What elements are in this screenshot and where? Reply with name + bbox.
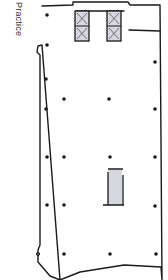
structural-columns xyxy=(36,13,157,256)
building-outline xyxy=(37,2,162,280)
floor-plan xyxy=(0,0,168,280)
partition-wall xyxy=(129,30,160,31)
service-shaft xyxy=(103,169,124,205)
elevator-core-right xyxy=(107,11,121,41)
elevator-core-left xyxy=(75,11,89,41)
